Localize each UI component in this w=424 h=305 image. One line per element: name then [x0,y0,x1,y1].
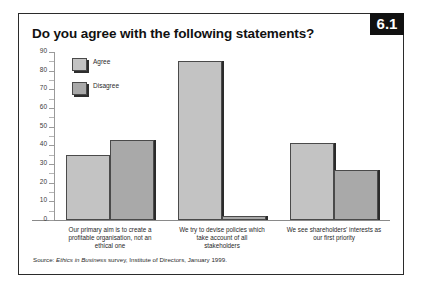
bar [66,155,110,220]
y-axis-tickmark [49,89,54,90]
source-prefix: Source: [33,256,54,263]
x-axis-category-label-line: our first priority [272,234,396,242]
y-axis-minor-tick [49,155,54,156]
y-axis-minor-tick [49,99,54,100]
x-axis-category-label-line: take account of all [160,234,284,242]
y-axis-tick: 10 [32,201,54,202]
y-axis-minor-tick [49,61,54,62]
source-publication: Ethics in Business [56,256,106,263]
bar [290,143,334,220]
x-axis-category-label: Our primary aim is to create aprofitable… [48,226,172,251]
x-axis-category-label-line: stakeholders [160,242,284,250]
y-axis-tickmark [49,145,54,146]
y-axis-ticklabel: 0 [43,215,47,222]
y-axis-tickmark [49,127,54,128]
page-title: Do you agree with the following statemen… [32,26,362,41]
x-axis-category-label-line: profitable organisation, not an [48,234,172,242]
x-axis-category-label-line: Our primary aim is to create a [48,226,172,234]
y-axis-tickmark [49,183,54,184]
x-axis-category-label-line: We see shareholders' interests as [272,226,396,234]
figure-container: 6.1 Do you agree with the following stat… [18,13,404,275]
x-axis-category-label-line: We try to devise policies which [160,226,284,234]
legend-swatch-agree [72,58,87,71]
y-axis-ticklabel: 40 [40,140,47,147]
legend-label-disagree: Disagree [93,82,119,89]
y-axis-tickmark [49,108,54,109]
y-axis-minor-tick [49,80,54,81]
y-axis-tick: 30 [32,164,54,165]
source-note: Source: Ethics in Business survey, Insti… [33,256,227,263]
y-axis-ticklabel: 20 [40,178,47,185]
bar [222,216,266,220]
y-axis-tickmark [49,71,54,72]
y-axis-tick: 90 [32,52,54,53]
y-axis-ticklabel: 60 [40,103,47,110]
y-axis-minor-tick [49,211,54,212]
y-axis-tickmark [49,52,54,53]
y-axis-tickmark [49,220,54,221]
y-axis-ticklabel: 30 [40,159,47,166]
y-axis-ticklabel: 70 [40,84,47,91]
y-axis-minor-tick [49,173,54,174]
y-axis-minor-tick [49,136,54,137]
legend-swatch-disagree [72,82,87,95]
y-axis-line [54,52,55,220]
y-axis-ticklabel: 90 [40,47,47,54]
bar [110,140,154,220]
y-axis-tickmark [49,164,54,165]
x-axis-category-label-line: ethical one [48,242,172,250]
legend-label-agree: Agree [93,58,110,65]
y-axis-tick: 0 [32,220,54,221]
y-axis-ticklabel: 50 [40,122,47,129]
bar [178,61,222,220]
source-rest: survey, Institute of Directors, January … [108,256,227,263]
y-axis-tick: 70 [32,89,54,90]
y-axis-tickmark [49,201,54,202]
y-axis-tick: 40 [32,145,54,146]
y-axis-minor-tick [49,192,54,193]
y-axis-minor-tick [49,117,54,118]
x-axis-category-label: We see shareholders' interests asour fir… [272,226,396,242]
y-axis-ticklabel: 10 [40,196,47,203]
y-axis-tick: 80 [32,71,54,72]
y-axis-tick: 50 [32,127,54,128]
x-axis-category-label: We try to devise policies whichtake acco… [160,226,284,251]
figure-number-badge: 6.1 [370,13,404,35]
bar-chart: 0102030405060708090 Agree Disagree Our p… [32,52,390,236]
y-axis-tick: 60 [32,108,54,109]
y-axis-tick: 20 [32,183,54,184]
x-axis-line [32,220,390,221]
y-axis-ticklabel: 80 [40,66,47,73]
bar [334,170,378,220]
